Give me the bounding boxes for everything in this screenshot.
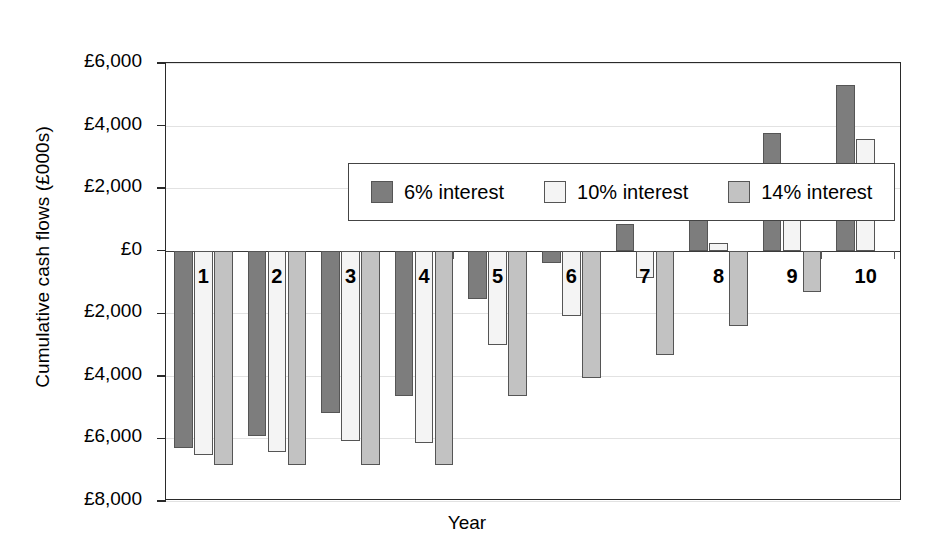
legend: 6% interest10% interest14% interest bbox=[348, 163, 895, 221]
legend-label: 6% interest bbox=[404, 181, 504, 204]
legend-item: 14% interest bbox=[728, 181, 872, 204]
y-axis-tick-label: £4,000 bbox=[22, 363, 142, 385]
legend-swatch-icon bbox=[728, 181, 750, 203]
legend-label: 10% interest bbox=[577, 181, 688, 204]
legend-swatch-icon bbox=[544, 181, 566, 203]
y-axis-tick bbox=[157, 250, 166, 251]
x-axis-tick bbox=[894, 251, 895, 259]
y-axis-tick bbox=[157, 125, 166, 126]
x-axis-group-label: 3 bbox=[321, 265, 380, 288]
y-axis-tick-label: £8,000 bbox=[22, 488, 142, 510]
gridline bbox=[166, 501, 900, 502]
y-axis-tick-label: £2,000 bbox=[22, 175, 142, 197]
plot-area: 12345678910 6% interest10% interest14% i… bbox=[165, 62, 901, 500]
legend-item: 10% interest bbox=[544, 181, 688, 204]
x-axis-group-label: 6 bbox=[542, 265, 601, 288]
y-axis-tick bbox=[157, 375, 166, 376]
y-axis-tick-label: £6,000 bbox=[22, 50, 142, 72]
bar bbox=[729, 251, 748, 327]
x-axis-group-label: 2 bbox=[248, 265, 307, 288]
x-axis-group-label: 8 bbox=[689, 265, 748, 288]
bar bbox=[709, 243, 728, 251]
x-axis-group-label: 5 bbox=[468, 265, 527, 288]
y-axis-tick bbox=[157, 62, 166, 63]
bar bbox=[616, 224, 635, 251]
y-axis-tick-labels: £6,000£4,000£2,000£0£2,000£4,000£6,000£8… bbox=[22, 62, 142, 500]
y-axis-tick bbox=[157, 500, 166, 501]
legend-swatch-icon bbox=[371, 181, 393, 203]
y-axis-tick bbox=[157, 313, 166, 314]
legend-label: 14% interest bbox=[761, 181, 872, 204]
gridline bbox=[166, 63, 900, 64]
cash-flow-bar-chart: Cumulative cash flows (£000s) £6,000£4,0… bbox=[0, 0, 934, 556]
gridline bbox=[166, 126, 900, 127]
y-axis-tick bbox=[157, 187, 166, 188]
x-axis-group-label: 10 bbox=[836, 265, 895, 288]
x-axis-group-label: 4 bbox=[395, 265, 454, 288]
y-axis-tick-label: £2,000 bbox=[22, 300, 142, 322]
x-axis-title: Year bbox=[0, 512, 934, 534]
y-axis-tick bbox=[157, 438, 166, 439]
legend-item: 6% interest bbox=[371, 181, 504, 204]
bar bbox=[542, 251, 561, 264]
y-axis-tick-label: £0 bbox=[22, 238, 142, 260]
y-axis-tick-label: £6,000 bbox=[22, 425, 142, 447]
x-axis-group-label: 1 bbox=[174, 265, 233, 288]
x-axis-group-label: 7 bbox=[616, 265, 675, 288]
y-axis-tick-label: £4,000 bbox=[22, 113, 142, 135]
x-axis-group-label: 9 bbox=[763, 265, 822, 288]
